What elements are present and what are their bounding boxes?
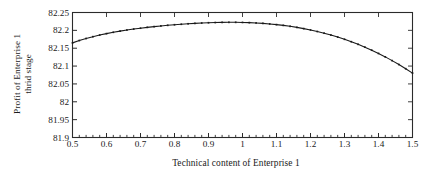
- chart-figure: Profit of Enterprise 1 thrid stage 81.98…: [0, 0, 440, 185]
- plot-frame: [73, 13, 413, 138]
- plot-area: [0, 0, 440, 185]
